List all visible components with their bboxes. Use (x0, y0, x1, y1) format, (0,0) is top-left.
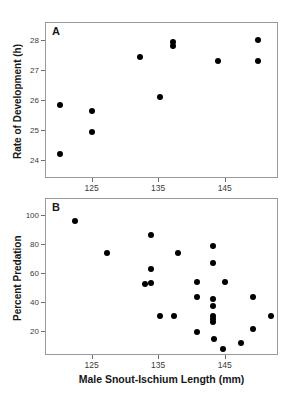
y-axis-tick (41, 244, 45, 245)
data-point (157, 94, 163, 100)
y-axis-tick-label: 28 (30, 36, 39, 45)
y-axis-tick (41, 160, 45, 161)
data-point (255, 58, 261, 64)
y-axis-tick (41, 70, 45, 71)
data-point (148, 266, 154, 272)
y-axis-tick (41, 130, 45, 131)
y-axis-tick-label: 40 (30, 297, 39, 306)
data-point (210, 319, 216, 325)
x-axis-tick (225, 355, 226, 359)
x-axis-tick-label: 135 (151, 183, 165, 193)
data-point (148, 280, 154, 286)
x-axis-tick-label: 125 (85, 183, 99, 193)
y-axis-tick-label: 60 (30, 268, 39, 277)
data-point (89, 108, 95, 114)
y-axis-tick (41, 100, 45, 101)
panel-b-y-axis-title: Percent Predation (12, 212, 23, 344)
data-point (220, 346, 226, 352)
y-axis-tick-label: 20 (30, 326, 39, 335)
y-axis-tick-label: 80 (30, 240, 39, 249)
y-axis-tick-label: 26 (30, 96, 39, 105)
y-axis-tick-label: 27 (30, 66, 39, 75)
y-axis-tick-label: 24 (30, 156, 39, 165)
panel-a-scatter-plot: A 2425262728 125135145 (45, 22, 278, 178)
x-axis-tick (92, 178, 93, 182)
data-point (194, 279, 200, 285)
x-axis-tick-label: 125 (85, 360, 99, 370)
data-point (210, 303, 216, 309)
x-axis-tick (158, 355, 159, 359)
data-point (210, 260, 216, 266)
y-axis-tick (41, 331, 45, 332)
panel-b-label: B (52, 201, 60, 213)
x-axis-tick (158, 178, 159, 182)
x-axis-tick (92, 355, 93, 359)
data-point (210, 296, 216, 302)
y-axis-tick (41, 302, 45, 303)
x-axis-tick (225, 178, 226, 182)
data-point (175, 250, 181, 256)
data-point (137, 54, 143, 60)
x-axis-tick-label: 135 (151, 360, 165, 370)
y-axis-tick-label: 25 (30, 126, 39, 135)
y-axis-tick-label: 100 (26, 211, 39, 220)
data-point (222, 279, 228, 285)
panel-b-scatter-plot: B 20406080100 125135145 (45, 198, 278, 355)
data-point (57, 102, 63, 108)
y-axis-tick (41, 40, 45, 41)
panel-a-y-axis-title: Rate of Development (h) (12, 28, 23, 174)
data-point (194, 329, 200, 335)
panel-a-label: A (52, 25, 60, 37)
shared-x-axis-title: Male Snout-Ischium Length (mm) (45, 373, 278, 385)
data-point (255, 37, 261, 43)
y-axis-tick (41, 273, 45, 274)
panel-a-plot-frame (45, 22, 278, 178)
panel-b-plot-frame (45, 198, 278, 355)
data-point (210, 243, 216, 249)
x-axis-tick-label: 145 (218, 360, 232, 370)
data-point (72, 218, 78, 224)
scatter-figure: Rate of Development (h) A 2425262728 125… (0, 0, 296, 399)
y-axis-tick (41, 215, 45, 216)
data-point (104, 250, 110, 256)
data-point (89, 129, 95, 135)
x-axis-tick-label: 145 (218, 183, 232, 193)
